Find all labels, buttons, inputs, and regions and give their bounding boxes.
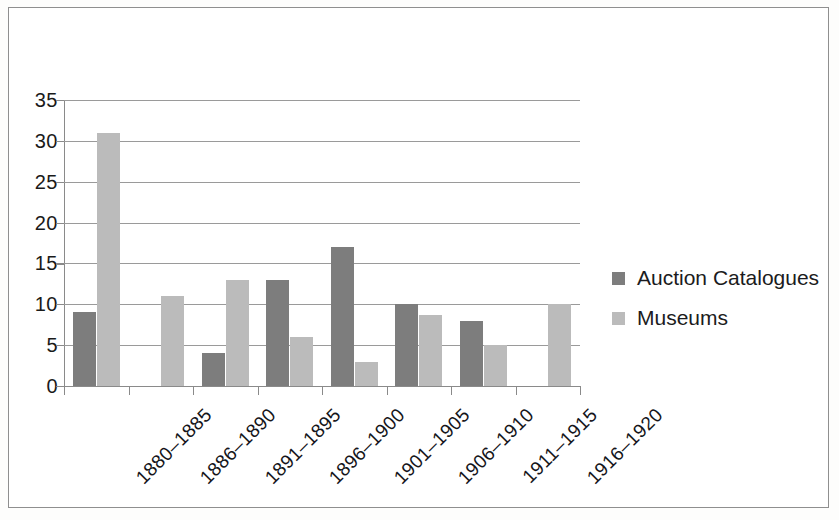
bar-group [193, 100, 258, 386]
y-axis-tick-label: 5 [12, 334, 58, 357]
legend-swatch-museums [612, 312, 625, 325]
y-axis-tick-label: 20 [12, 211, 58, 234]
y-axis-tick-mark [56, 223, 64, 224]
bar [202, 353, 225, 386]
legend-item: Auction Catalogues [612, 258, 819, 298]
bar [266, 280, 289, 386]
legend-label: Museums [637, 306, 728, 330]
y-axis-tick-mark [56, 141, 64, 142]
bar [290, 337, 313, 386]
x-axis-tick-mark [451, 386, 452, 395]
legend-swatch-auction-catalogues [612, 272, 625, 285]
bar [355, 362, 378, 387]
bar [226, 280, 249, 386]
bar [460, 321, 483, 386]
bar [484, 345, 507, 386]
plot-area [64, 100, 580, 386]
bar-group [387, 100, 452, 386]
y-axis-tick-label: 30 [12, 129, 58, 152]
bar-group [322, 100, 387, 386]
bar-group [258, 100, 323, 386]
y-axis-tick-mark [56, 100, 64, 101]
x-axis-tick-mark [193, 386, 194, 395]
y-axis-tick-mark [56, 386, 64, 387]
bar [161, 296, 184, 386]
y-axis-tick-label: 15 [12, 252, 58, 275]
y-axis-tick-mark [56, 182, 64, 183]
y-axis-tick-label: 0 [12, 375, 58, 398]
bar [395, 304, 418, 386]
bar-group [516, 100, 581, 386]
y-axis-tick-label: 10 [12, 293, 58, 316]
bar [73, 312, 96, 386]
y-axis-tick-mark [56, 263, 64, 264]
x-axis-tick-mark [322, 386, 323, 395]
x-axis-tick-mark [580, 386, 581, 395]
bar-group [64, 100, 129, 386]
bar [97, 133, 120, 386]
y-axis-tick-mark [56, 304, 64, 305]
y-axis-tick-label: 25 [12, 170, 58, 193]
legend-label: Auction Catalogues [637, 266, 819, 290]
x-axis-tick-mark [387, 386, 388, 395]
bar [548, 304, 571, 386]
x-axis-tick-mark [516, 386, 517, 395]
y-axis-tick-labels: 05101520253035 [4, 0, 58, 520]
chart-legend: Auction CataloguesMuseums [612, 258, 819, 338]
y-axis-tick-label: 35 [12, 89, 58, 112]
legend-item: Museums [612, 298, 819, 338]
chart-figure: 05101520253035 1880–18851886–18901891–18… [0, 0, 839, 520]
bar-group [451, 100, 516, 386]
y-axis-tick-mark [56, 345, 64, 346]
x-axis-tick-mark [64, 386, 65, 395]
bar-group [129, 100, 194, 386]
x-axis-tick-mark [258, 386, 259, 395]
bar [419, 315, 442, 386]
x-axis-tick-mark [129, 386, 130, 395]
bar [331, 247, 354, 386]
